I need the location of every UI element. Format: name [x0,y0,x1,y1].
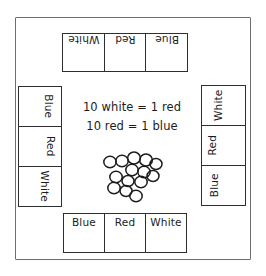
top-row-cell-1-label: White [68,34,100,46]
left-column-cell-3[interactable]: White [19,167,61,206]
chip-3[interactable] [128,152,141,164]
chip-6[interactable] [126,164,138,175]
exchange-rule-2: 10 red = 1 blue [72,117,192,136]
chip-pile [98,148,170,206]
bottom-row-table: Blue Red White [63,213,187,253]
chip-10[interactable] [135,176,147,187]
left-column-cell-1-label: Blue [44,94,55,118]
chip-12[interactable] [108,182,120,193]
top-row-cell-3-label: Blue [155,34,179,46]
right-column-cell-2-label: Red [207,135,218,156]
chip-pile-graphic [98,148,170,206]
chip-9[interactable] [122,175,134,186]
right-column-cell-3[interactable]: Blue [202,166,245,205]
bottom-row-cell-1[interactable]: Blue [64,214,105,252]
chip-2[interactable] [116,155,128,166]
right-column-cell-2[interactable]: Red [202,126,245,166]
bottom-row-cell-3[interactable]: White [146,214,186,252]
worksheet-canvas: White Red Blue Blue Red White White Red … [0,0,266,276]
right-column-cell-3-label: Blue [209,173,220,197]
right-column-cell-1-label: White [213,90,224,122]
bottom-row-cell-2-label: Red [115,214,136,228]
bottom-row-cell-3-label: White [150,214,182,228]
top-row-table: White Red Blue [62,33,188,72]
left-column-cell-1[interactable]: Blue [19,87,61,127]
top-row-cell-3[interactable]: Blue [146,34,187,71]
right-column-table: White Red Blue [201,85,246,206]
bottom-row-cell-2[interactable]: Red [105,214,146,252]
top-row-cell-2-label: Red [115,34,136,46]
chip-5[interactable] [150,158,162,169]
left-column-cell-2[interactable]: Red [19,127,61,167]
left-column-cell-3-label: White [40,171,51,203]
chip-14[interactable] [130,190,142,201]
right-column-cell-1[interactable]: White [202,86,245,126]
top-row-cell-2[interactable]: Red [105,34,147,71]
chip-8[interactable] [110,171,122,182]
exchange-rule-1: 10 white = 1 red [72,98,192,117]
chip-1[interactable] [104,156,116,167]
bottom-row-cell-1-label: Blue [72,214,96,228]
top-row-cell-1[interactable]: White [63,34,105,71]
left-column-table: Blue Red White [18,86,62,207]
exchange-rules: 10 white = 1 red 10 red = 1 blue [72,98,192,136]
left-column-cell-2-label: Red [45,136,56,157]
